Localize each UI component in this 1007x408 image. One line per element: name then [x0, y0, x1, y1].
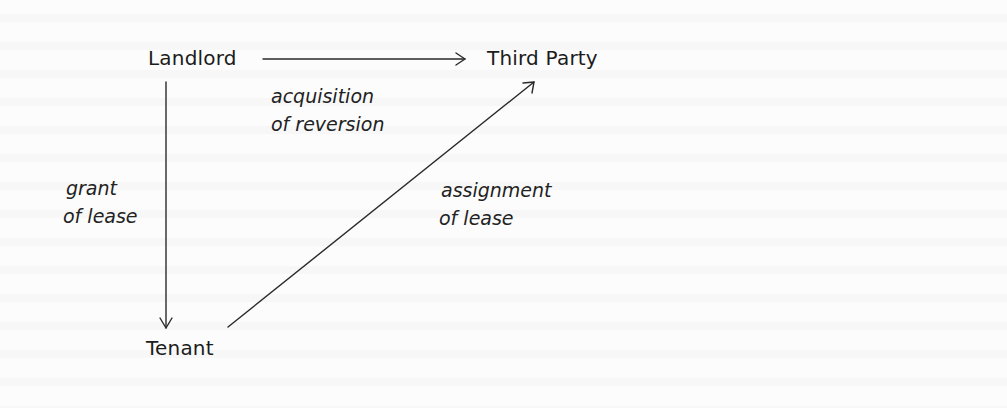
edge-label-line1: assignment — [439, 176, 552, 204]
node-tenant: Tenant — [146, 338, 214, 358]
node-landlord: Landlord — [148, 48, 237, 68]
edge-label-grant: grant of lease — [63, 174, 138, 230]
edge-label-line2: of lease — [439, 204, 552, 232]
edge-label-line2: of reversion — [271, 110, 384, 138]
edge-label-assignment: assignment of lease — [439, 176, 552, 232]
node-third-party: Third Party — [487, 48, 598, 68]
edge-label-line1: grant — [63, 174, 138, 202]
arrow-landlord-to-tenant — [160, 82, 172, 328]
arrow-landlord-to-third-party — [263, 53, 465, 65]
edge-label-line2: of lease — [63, 202, 138, 230]
edge-label-acquisition: acquisition of reversion — [271, 82, 384, 138]
edge-label-line1: acquisition — [271, 82, 384, 110]
